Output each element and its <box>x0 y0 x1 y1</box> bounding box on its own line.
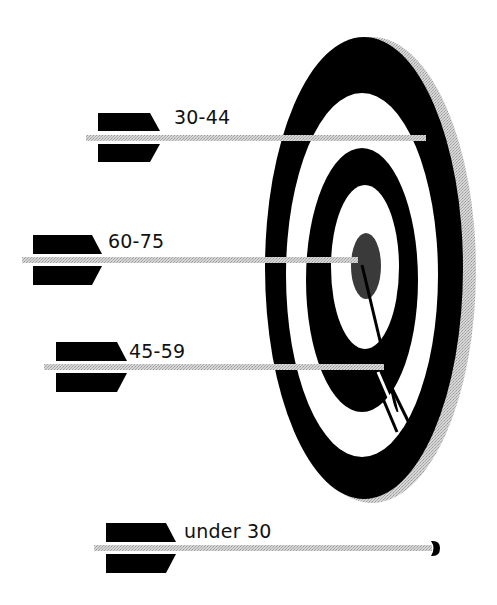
bullseye <box>351 233 381 299</box>
fletching-top <box>98 113 160 131</box>
fletching-bottom <box>33 266 102 285</box>
arrow-label-under-30: under 30 <box>184 522 271 541</box>
arrow-shaft <box>22 257 358 263</box>
fletching-bottom <box>106 554 176 573</box>
arrow-label-45-59: 45-59 <box>129 342 185 361</box>
fletching-bottom <box>56 373 127 392</box>
arrow-label-30-44: 30-44 <box>174 108 230 127</box>
fletching-bottom <box>98 144 160 162</box>
arrow-label-60-75: 60-75 <box>108 232 164 251</box>
target-diagram: 30-44 60-75 45-59 under 30 <box>0 0 497 605</box>
arrow-shaft <box>94 545 432 551</box>
fletching-top <box>56 342 127 361</box>
target-board <box>265 37 476 503</box>
arrow-shaft <box>44 364 384 370</box>
arrow-tip-icon <box>431 541 440 556</box>
fletching-top <box>33 235 102 254</box>
fletching-top <box>106 523 176 542</box>
target-graphic <box>0 0 497 605</box>
arrow-shaft <box>86 135 426 141</box>
